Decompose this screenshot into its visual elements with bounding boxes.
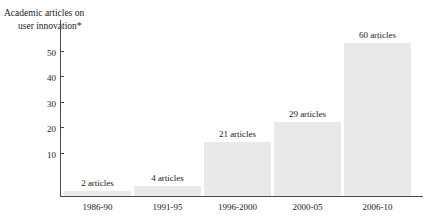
bar-rect[interactable] bbox=[344, 43, 411, 196]
bar-value-label: 29 articles bbox=[289, 109, 326, 119]
y-tick-label: 40 bbox=[47, 73, 61, 83]
bar-group-1986-90[interactable]: 2 articles 1986-90 bbox=[64, 191, 131, 196]
y-tick-label: 50 bbox=[47, 48, 61, 58]
category-label: 1991-95 bbox=[153, 202, 183, 212]
y-tick-20: 20 bbox=[47, 118, 61, 136]
bars-layer: 2 articles 1986-90 4 articles 1991-95 21… bbox=[61, 20, 425, 196]
category-label: 2000-05 bbox=[293, 202, 323, 212]
bar-value-label: 60 articles bbox=[359, 30, 396, 40]
bar-rect[interactable] bbox=[274, 122, 341, 196]
chart-title-line-1: Academic articles on bbox=[4, 8, 84, 18]
bar-value-label: 4 articles bbox=[151, 173, 184, 183]
bar-group-2000-05[interactable]: 29 articles 2000-05 bbox=[274, 122, 341, 196]
plot-area: 10 20 30 40 50 2 articles bbox=[61, 20, 425, 196]
bar-value-label: 21 articles bbox=[219, 129, 256, 139]
y-tick-50: 50 bbox=[47, 42, 61, 60]
x-axis-line bbox=[61, 196, 423, 197]
bar-rect[interactable] bbox=[64, 191, 131, 196]
category-label: 1986-90 bbox=[83, 202, 113, 212]
y-tick-label: 10 bbox=[47, 150, 61, 160]
bar-group-1991-95[interactable]: 4 articles 1991-95 bbox=[134, 186, 201, 196]
y-tick-40: 40 bbox=[47, 67, 61, 85]
bar-chart: Academic articles on user innovation* 10… bbox=[0, 0, 429, 224]
bar-value-label: 2 articles bbox=[81, 178, 114, 188]
bar-rect[interactable] bbox=[204, 142, 271, 196]
category-label: 2006-10 bbox=[363, 202, 393, 212]
bar-group-1996-2000[interactable]: 21 articles 1996-2000 bbox=[204, 142, 271, 196]
y-tick-label: 30 bbox=[47, 99, 61, 109]
y-tick-30: 30 bbox=[47, 93, 61, 111]
y-tick-10: 10 bbox=[47, 144, 61, 162]
y-tick-label: 20 bbox=[47, 124, 61, 134]
bar-rect[interactable] bbox=[134, 186, 201, 196]
category-label: 1996-2000 bbox=[218, 202, 257, 212]
bar-group-2006-10[interactable]: 60 articles 2006-10 bbox=[344, 43, 411, 196]
